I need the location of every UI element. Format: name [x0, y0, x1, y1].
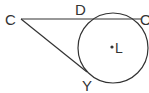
tangent-line-CY	[21, 19, 87, 72]
label-center-L: L	[115, 40, 123, 56]
center-point-L	[110, 45, 113, 48]
label-point-D: D	[75, 1, 86, 18]
geometry-diagram: C D O L Y	[0, 0, 149, 93]
label-point-C: C	[5, 11, 16, 28]
label-point-O: O	[140, 11, 149, 28]
label-point-Y: Y	[82, 77, 92, 93]
